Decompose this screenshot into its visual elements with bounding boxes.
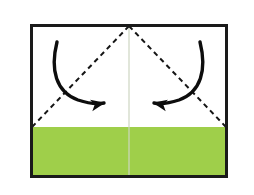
origami-diagram-canvas (0, 0, 254, 195)
origami-diagram: A rectangular sheet of paper outlined in… (0, 0, 254, 195)
